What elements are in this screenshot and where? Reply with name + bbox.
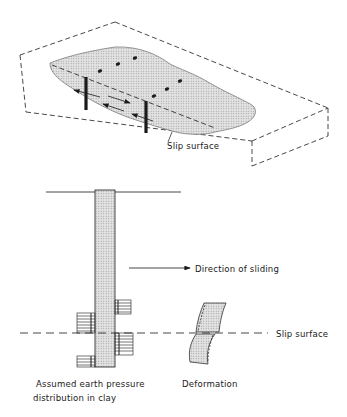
block-edge-front-top xyxy=(252,108,328,141)
section-view: Direction of sliding Slip surface xyxy=(20,190,328,403)
block-edge-right-bottom xyxy=(252,136,328,166)
slip-surface-label: Slip surface xyxy=(276,328,328,339)
deformation-shape xyxy=(189,303,226,364)
isometric-block: Slip surface xyxy=(20,22,328,166)
pile-section xyxy=(95,190,115,367)
slip-surface-label-iso: Slip surface xyxy=(167,140,219,151)
direction-label: Direction of sliding xyxy=(195,263,279,274)
pressure-caption-line1: Assumed earth pressure xyxy=(36,378,145,389)
slope-pile-diagram: Slip surface Direction of sliding Slip s… xyxy=(0,0,347,417)
pressure-caption-line2: distribution in clay xyxy=(33,392,116,403)
deformation-caption: Deformation xyxy=(182,378,238,389)
block-edge-left xyxy=(20,55,26,112)
